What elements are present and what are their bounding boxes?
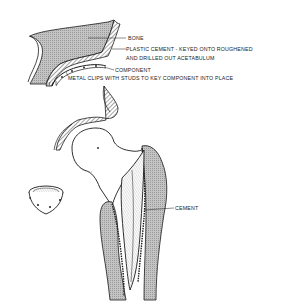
label-cement: CEMENT <box>175 205 198 211</box>
label-acetabulum: AND DRILLED OUT ACETABULUM <box>126 55 214 61</box>
label-component: COMPONENT <box>115 67 151 73</box>
label-plastic-cement: PLASTIC CEMENT - KEYED ONTO ROUGHENED <box>126 46 253 52</box>
hip-prosthesis-diagram: BONE PLASTIC CEMENT - KEYED ONTO ROUGHEN… <box>0 0 294 304</box>
acetabular-cup <box>29 186 63 214</box>
label-metal-clips: METAL CLIPS WITH STUDS TO KEY COMPONENT … <box>68 75 233 81</box>
label-bone: BONE <box>128 35 144 41</box>
